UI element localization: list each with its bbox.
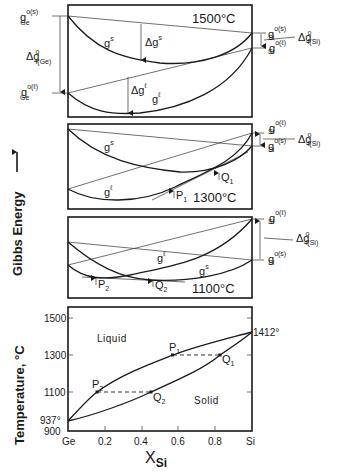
- q1-label: Q1: [221, 171, 234, 185]
- delta-gf-si-leader: [264, 238, 293, 240]
- delta-g-liquid-label: Δgℓ: [131, 82, 147, 96]
- region-solid-label: Solid: [194, 395, 219, 406]
- g-liquid-label: gℓ: [152, 91, 161, 105]
- solid-reference-line: [68, 129, 252, 146]
- x-tick-label: 0.2: [98, 436, 112, 447]
- panel-1100c: 1100°C gℓ gs P2 Q2 go(ℓ)Si go(s)Si Δgof(…: [68, 209, 318, 298]
- delta-gf-si-label: Δgof(Si): [296, 230, 318, 247]
- delta-gf-si-label: Δgof(Si): [298, 29, 320, 46]
- g-liquid-label: gℓ: [104, 184, 113, 198]
- g-si-liquid-label: go(ℓ)Si: [268, 209, 286, 225]
- region-liquid-label: Liquid: [97, 333, 127, 344]
- g-ge-liquid-label: go(ℓ)Ge: [20, 83, 38, 101]
- g-solid-label: gs: [104, 139, 114, 153]
- x-tick-label: 0.8: [208, 436, 222, 447]
- x-tick-label: Si: [246, 436, 255, 447]
- q1-label: Q1: [222, 353, 235, 367]
- g-solid-curve: [68, 129, 252, 172]
- y-tick-label: 1300: [44, 350, 67, 361]
- delta-gf-si-label: Δgof(Si): [298, 131, 320, 148]
- y-axis-title: Temperature, °C: [12, 345, 27, 445]
- gibbs-energy-axis-label: Gibbs Energy: [10, 152, 25, 276]
- g-solid-label: gs: [104, 35, 114, 49]
- q2-label: Q2: [153, 391, 166, 405]
- delta-g-solid-label: Δgs: [145, 34, 162, 48]
- panel-temperature: 1300°C: [193, 190, 237, 205]
- g-liquid-curve: [68, 48, 252, 114]
- panel-1500c: 1500°C gs Δgs Δgℓ gℓ go(s)Ge go(ℓ)Ge Δgo…: [20, 5, 320, 117]
- x-tick-label: 0.4: [134, 436, 148, 447]
- p2-label: P2: [98, 278, 109, 292]
- g-si-liquid-label: go(ℓ)Si: [268, 119, 286, 135]
- x-axis-title: XSi: [145, 449, 167, 470]
- ge-melting-point-label: 937°: [40, 415, 61, 426]
- x-tick-label: 0.6: [171, 436, 185, 447]
- p1-label: P1: [169, 341, 180, 355]
- si-melting-point-label: 1412°: [253, 327, 279, 338]
- gibbs-energy-label: Gibbs Energy: [10, 191, 25, 276]
- figure-canvas: 1500°C gs Δgs Δgℓ gℓ go(s)Ge go(ℓ)Ge Δgo…: [0, 0, 340, 472]
- point-p2: [96, 391, 99, 394]
- panel-1300c: 1300°C gs gℓ Q1 P1 go(ℓ)Si go(s)Si Δgof(…: [68, 119, 320, 209]
- panel-temperature: 1100°C: [192, 281, 235, 296]
- liquid-reference-line: [68, 48, 252, 93]
- g-ge-solid-label: go(s)Ge: [20, 8, 38, 26]
- p1-label: P1: [176, 189, 187, 203]
- plot-frame: [68, 307, 252, 431]
- delta-gf-ge-label: Δgof(Ge): [26, 48, 51, 66]
- solidus-curve: [68, 332, 252, 421]
- x-tick-label: Ge: [62, 436, 76, 447]
- g-si-liquid-label: go(ℓ)Si: [268, 39, 286, 55]
- g-si-solid-label: go(s)Si: [268, 137, 286, 153]
- g-liquid-curve: [68, 219, 252, 278]
- p2-label: P2: [92, 378, 103, 392]
- y-tick-label: 1100: [44, 387, 66, 398]
- y-tick-label: 1500: [44, 313, 67, 324]
- point-p1: [171, 354, 174, 357]
- liquidus-curve: [68, 332, 252, 421]
- g-si-solid-label: go(s)Si: [268, 250, 286, 266]
- panel-temperature: 1500°C: [192, 11, 236, 26]
- y-tick-label: 900: [44, 426, 61, 437]
- phase-diagram: P1 Q1 P2 Q2 Liquid Solid 1412° 937° 1500…: [12, 307, 279, 470]
- g-liquid-label: gℓ: [157, 250, 166, 264]
- g-solid-label: gs: [199, 263, 209, 277]
